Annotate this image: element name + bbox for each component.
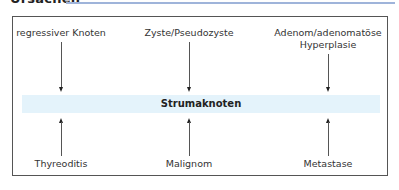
cause-adenoma-line2: Hyperplasie: [274, 39, 381, 51]
title-rule: [66, 2, 395, 4]
arrow-up-3: [328, 122, 329, 156]
arrowhead-down-icon: [187, 87, 191, 92]
arrow-up-1: [61, 122, 62, 156]
cause-malignancy: Malignom: [166, 158, 212, 170]
cause-regressive-nodule: regressiver Knoten: [16, 27, 106, 39]
arrow-down-1: [61, 42, 62, 88]
center-label: Strumaknoten: [22, 95, 380, 113]
arrowhead-down-icon: [59, 87, 63, 92]
cause-cyst: Zyste/Pseudozyste: [144, 27, 233, 39]
arrowhead-down-icon: [326, 87, 330, 92]
arrow-up-2: [189, 122, 190, 156]
cause-metastasis: Metastase: [304, 158, 353, 170]
center-band: Strumaknoten: [22, 95, 380, 113]
cause-thyroiditis: Thyreoditis: [35, 158, 88, 170]
cause-adenoma-line1: Adenom/adenomatöse: [274, 27, 381, 39]
arrow-down-3: [328, 54, 329, 88]
cause-adenoma: Adenom/adenomatöse Hyperplasie: [274, 27, 381, 51]
arrow-down-2: [189, 42, 190, 88]
